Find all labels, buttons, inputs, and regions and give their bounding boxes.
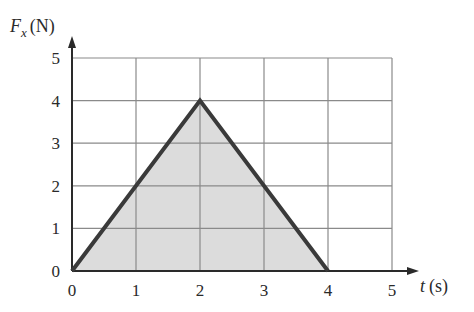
x-tick-label: 2 (196, 281, 205, 300)
x-tick-label: 4 (324, 281, 333, 300)
y-tick-labels: 012345 (52, 49, 61, 281)
x-tick-labels: 012345 (68, 281, 397, 300)
y-tick-label: 5 (52, 49, 61, 68)
x-tick-label: 1 (132, 281, 141, 300)
x-tick-label: 3 (260, 281, 269, 300)
y-axis-arrow-icon (68, 36, 76, 48)
y-tick-label: 2 (52, 177, 61, 196)
y-axis-label: Fx(N) (9, 16, 55, 40)
y-tick-label: 1 (52, 219, 61, 238)
x-tick-label: 5 (388, 281, 397, 300)
y-tick-label: 4 (52, 92, 61, 111)
y-tick-label: 3 (52, 134, 61, 153)
x-tick-label: 0 (68, 281, 77, 300)
y-tick-label: 0 (52, 262, 61, 281)
force-time-chart: 012345 012345 Fx(N) t(s) (0, 0, 474, 312)
x-axis-arrow-icon (407, 267, 419, 275)
x-axis-label: t(s) (420, 276, 448, 297)
